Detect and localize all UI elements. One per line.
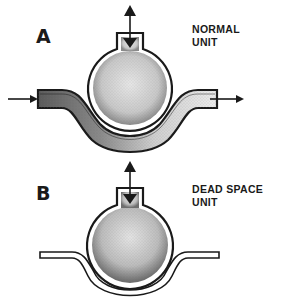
panel-b: B DEAD SPACE UNIT: [36, 161, 263, 296]
panel-letter-b: B: [36, 182, 50, 204]
diagram-canvas: A NORMAL UNIT B DEAD SPACE UN: [0, 0, 283, 307]
panel-b-title-line2: UNIT: [192, 196, 218, 208]
panel-a-title-line2: UNIT: [192, 36, 218, 48]
panel-a: A NORMAL UNIT: [8, 5, 240, 152]
panel-a-title-line1: NORMAL: [192, 23, 240, 35]
panel-b-title-line1: DEAD SPACE: [192, 183, 263, 195]
panel-letter-a: A: [36, 25, 51, 47]
